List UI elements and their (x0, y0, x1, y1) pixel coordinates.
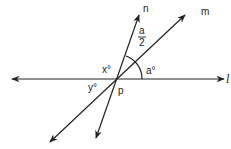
label-angle-a: a° (146, 65, 156, 76)
label-m: m (201, 6, 209, 17)
geometry-diagram: n m l a 2 x° a° y° p (0, 0, 231, 149)
label-l: l (226, 72, 230, 86)
label-angle-y: y° (88, 82, 97, 93)
label-n: n (143, 3, 149, 14)
line-n (96, 15, 139, 138)
label-angle-x: x° (102, 64, 111, 75)
label-point-p: p (118, 85, 124, 96)
label-half-a-denominator: 2 (139, 37, 145, 48)
label-half-a-numerator: a (139, 25, 145, 36)
